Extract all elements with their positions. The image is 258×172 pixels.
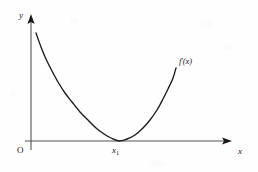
function-curve	[36, 33, 176, 141]
critical-point-subscript: 1	[116, 149, 119, 156]
curve-function-label: f'(x)	[179, 57, 192, 66]
calculus-figure: y x O x1 f'(x)	[0, 0, 258, 172]
plot-canvas	[0, 0, 258, 172]
y-axis-label: y	[19, 11, 23, 20]
y-axis	[27, 14, 34, 150]
x-axis-label: x	[238, 147, 242, 156]
critical-point-label: x1	[112, 146, 119, 156]
curve-function-argument: (x)	[183, 56, 192, 66]
origin-label: O	[17, 146, 24, 155]
